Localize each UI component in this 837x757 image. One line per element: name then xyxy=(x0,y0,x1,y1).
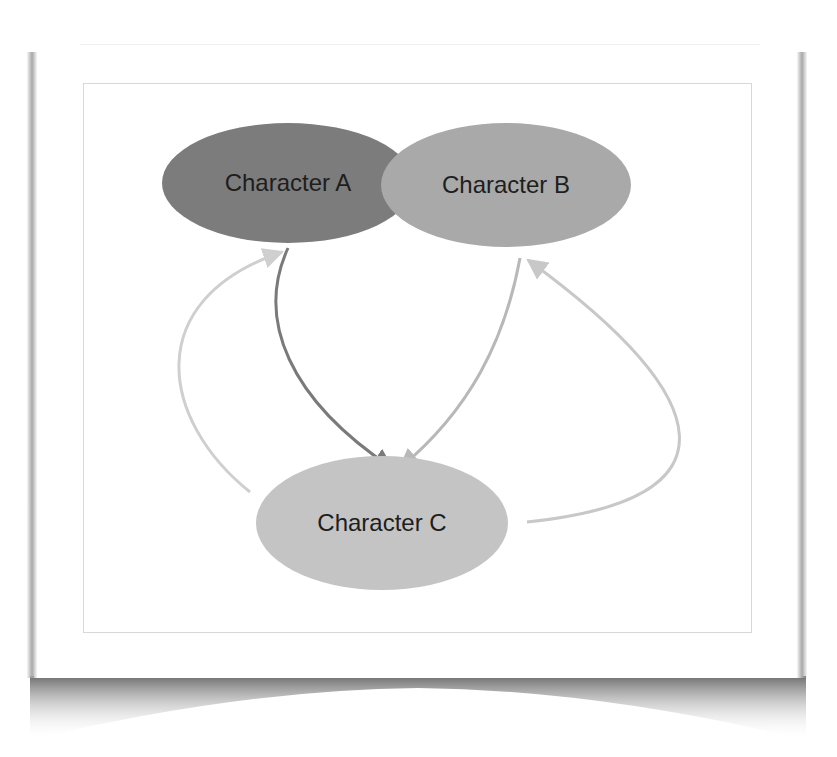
node-c-label: Character C xyxy=(317,509,446,536)
node-character-c[interactable]: Character C xyxy=(256,456,508,590)
node-character-b[interactable]: Character B xyxy=(381,123,631,247)
edge-b-to-c xyxy=(400,258,520,468)
node-character-a[interactable]: Character A xyxy=(162,123,414,243)
edge-c-to-a xyxy=(179,252,282,492)
node-a-label: Character A xyxy=(225,169,352,196)
edge-a-to-c xyxy=(276,248,392,468)
node-b-label: Character B xyxy=(442,171,570,198)
edge-c-to-b xyxy=(527,260,679,522)
relationship-diagram: Character A Character B Character C xyxy=(0,0,837,757)
